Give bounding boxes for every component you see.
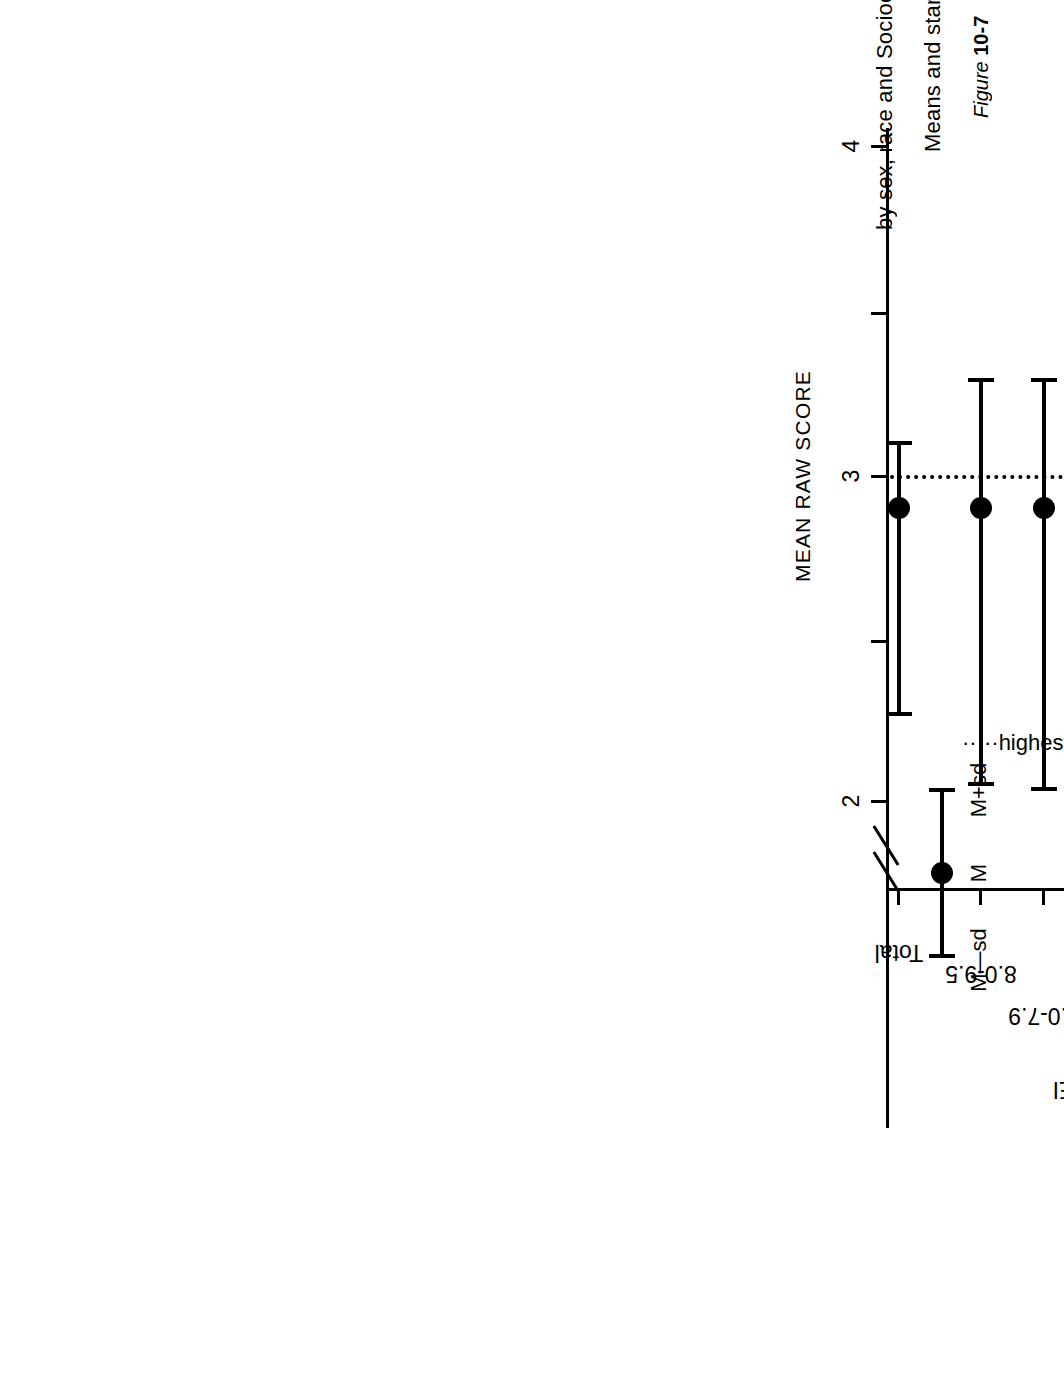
category-tick-total [897, 888, 900, 905]
legend-mean-dot [931, 862, 953, 884]
errorbar-cap-upper [1031, 378, 1057, 382]
errorbar-line [979, 378, 983, 786]
reference-line-label: ·····highest possible score [962, 730, 1064, 756]
errorbar-cap-lower [968, 782, 994, 786]
category-axis-title: Grouped SEI [1053, 1076, 1064, 1103]
value-tick-label-3: 3 [838, 470, 865, 483]
legend-cap-upper [929, 788, 955, 792]
errorbar-line [1042, 378, 1046, 791]
value-tick-2 [871, 800, 889, 803]
figure-number-value: 10-7 [970, 16, 992, 56]
errorbar-cap-lower [886, 712, 912, 716]
value-tick-label-4: 4 [838, 140, 865, 153]
category-label-total: Total [875, 939, 924, 966]
mean-dot [1033, 497, 1055, 519]
value-axis-title: MEAN RAW SCORE [791, 370, 815, 582]
errorbar-line [897, 441, 901, 716]
figure-canvas: Figure 10-7 Means and standard deviation… [0, 0, 1064, 1376]
category-label-sei-8095: 8.0-9.5 [945, 960, 1017, 987]
value-tick-4 [871, 145, 889, 148]
value-tick-label-2: 2 [838, 795, 865, 808]
reference-line [889, 475, 1064, 479]
mean-dot [888, 497, 910, 519]
value-tick-3-5 [871, 312, 889, 315]
figure-number-prefix: Figure [970, 56, 992, 118]
plot-area: 4 3 2 MEAN RAW SCORE ·····highest possib… [129, 128, 889, 1128]
value-axis-line [886, 128, 889, 1128]
errorbar-cap-upper [968, 378, 994, 382]
value-tick-3 [871, 475, 889, 478]
errorbar-cap-lower [1031, 787, 1057, 791]
figure-number: Figure 10-7 [970, 16, 993, 118]
value-tick-2-5 [871, 640, 889, 643]
category-tick-sei-8095 [979, 888, 982, 905]
mean-dot [970, 497, 992, 519]
category-axis-line [886, 888, 1064, 891]
errorbar-cap-upper [886, 441, 912, 445]
category-tick-sei-6079 [1042, 888, 1045, 905]
legend-cap-lower [929, 954, 955, 958]
legend-label-mean: M [966, 864, 992, 882]
category-label-sei-6079: 6.0-7.9 [1008, 1002, 1064, 1029]
